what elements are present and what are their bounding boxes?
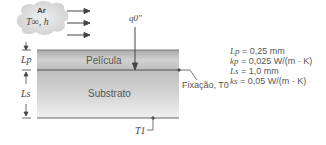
properties-list: Lp = 0,25 mm kp = 0,025 W/(m · K) Ls = 1… <box>230 46 312 86</box>
property-row: kp = 0,025 W/(m · K) <box>230 56 312 66</box>
bottom-temperature-label: T1 <box>135 125 146 136</box>
film-label: Película <box>86 55 122 66</box>
air-label: Ar <box>37 6 46 15</box>
substrate-thickness-label: Ls <box>21 88 30 99</box>
heat-flux-label: q0" <box>129 13 142 23</box>
property-row: Lp = 0,25 mm <box>230 46 312 56</box>
airflow-arrows <box>67 9 90 38</box>
interface-label: Fixação, T0 <box>182 80 229 90</box>
substrate-label: Substrato <box>88 88 131 99</box>
film-thickness-label: Lp <box>21 54 32 65</box>
property-row: ks = 0,05 W/(m · K) <box>230 76 312 86</box>
property-row: Ls = 1,0 mm <box>230 66 312 76</box>
air-conditions: T∞, h <box>26 16 49 27</box>
heat-flux-arrow <box>133 27 138 70</box>
